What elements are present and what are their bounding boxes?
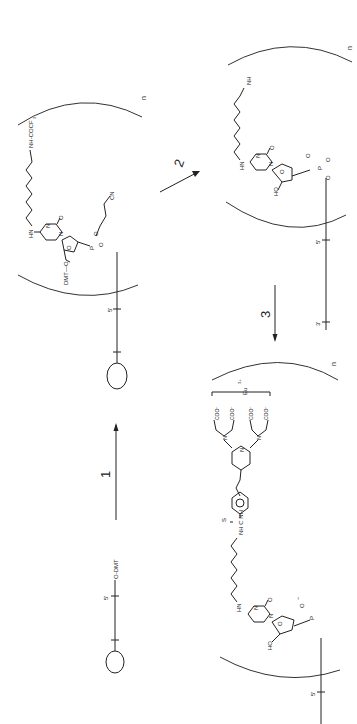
svg-text:O: O (279, 169, 285, 174)
svg-text:COO⁻: COO⁻ (214, 406, 220, 420)
intermediate-2-structure: n 5' 3' NH HN N N O O HO P O O O (226, 46, 353, 330)
o-dmt-label: O-DMT (113, 559, 119, 579)
svg-text:HN: HN (28, 229, 34, 238)
svg-text:O: O (66, 245, 72, 250)
step-3-label: 3 (258, 311, 273, 318)
svg-text:N: N (222, 436, 228, 440)
svg-text:COO⁻: COO⁻ (229, 406, 235, 420)
svg-text:P: P (309, 616, 315, 620)
svg-text:NH C NH: NH C NH (238, 510, 244, 535)
svg-text:5': 5' (107, 308, 113, 312)
reaction-scheme: 5' O-DMT 1 n 5' NH-COCF 3 HN N N O O D (0, 0, 357, 724)
svg-text:N: N (255, 154, 261, 158)
svg-text:O: O (305, 153, 311, 158)
svg-text:O: O (58, 215, 64, 220)
svg-text:CN: CN (109, 191, 115, 200)
bracket-arc-top (18, 103, 142, 125)
svg-text:3+: 3+ (237, 379, 242, 384)
bracket-arc-bottom (220, 657, 340, 678)
svg-text:O: O (267, 597, 273, 602)
svg-text:Eu: Eu (242, 388, 248, 395)
svg-text:N: N (253, 606, 259, 610)
svg-text:P: P (317, 166, 323, 170)
svg-text:COO⁻: COO⁻ (248, 406, 254, 420)
svg-text:N: N (239, 448, 245, 452)
svg-text:HO: HO (267, 641, 273, 650)
bracket-arc-bottom (226, 202, 346, 227)
svg-text:N: N (256, 436, 262, 440)
svg-text:5': 5' (315, 240, 321, 244)
svg-text:N: N (58, 232, 64, 236)
svg-text:O: O (299, 603, 305, 608)
repeat-n-label: n (140, 96, 147, 100)
svg-text:NH: NH (246, 76, 252, 85)
arrow-step-2: 2 (160, 157, 200, 192)
svg-text:−: − (295, 596, 301, 600)
bracket-arc-bottom (18, 275, 138, 295)
svg-text:HN: HN (239, 161, 245, 170)
svg-text:HO: HO (273, 187, 279, 196)
svg-text:COO⁻: COO⁻ (263, 406, 269, 420)
five-prime-label: 5' (103, 596, 109, 600)
intermediate-1-structure: n 5' NH-COCF 3 HN N N O O DMT—O P CN O O (18, 96, 147, 389)
svg-text:N: N (268, 614, 274, 618)
svg-text:O: O (98, 242, 104, 247)
step-1-label: 1 (98, 471, 113, 478)
svg-text:O: O (277, 621, 283, 626)
start-structure: 5' O-DMT (103, 559, 124, 673)
svg-text:5': 5' (310, 692, 316, 696)
svg-text:O: O (93, 231, 99, 236)
repeat-n-label: n (346, 46, 353, 50)
bracket-arc-top (228, 47, 352, 65)
svg-text:HN: HN (236, 603, 242, 612)
solid-support-bead (106, 651, 124, 673)
arrow-step-1: 1 (98, 423, 119, 520)
svg-text:3': 3' (315, 322, 321, 326)
svg-text:DMT—O: DMT—O (63, 261, 69, 285)
svg-text:N: N (45, 224, 51, 228)
bracket-arc-top (212, 363, 338, 381)
repeat-n-label: n (330, 362, 337, 366)
svg-text:O: O (325, 157, 331, 162)
svg-text:O: O (325, 175, 331, 180)
svg-text:O: O (269, 145, 275, 150)
step-2-label: 2 (171, 157, 188, 169)
arrow-step-3: 3 (258, 285, 278, 342)
svg-text:P: P (89, 246, 95, 250)
svg-text:S: S (221, 518, 227, 522)
solid-support-bead (107, 363, 127, 389)
svg-text:N: N (268, 162, 274, 166)
svg-text:NH-COCF: NH-COCF (28, 120, 34, 148)
product-structure: n 5' Eu 3+ COO⁻ COO⁻ COO⁻ COO⁻ N N N NH … (212, 362, 340, 724)
